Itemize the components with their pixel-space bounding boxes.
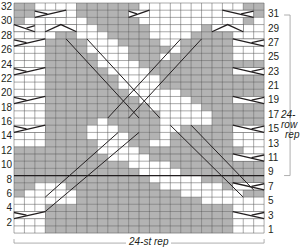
knit-cell <box>254 140 264 147</box>
purl-cell <box>222 147 232 154</box>
purl-cell <box>254 82 264 89</box>
purl-cell <box>170 190 180 197</box>
cable-cross-icon <box>233 154 264 161</box>
knit-cell <box>170 111 180 118</box>
knit-cell <box>97 147 107 154</box>
knit-cell <box>191 104 201 111</box>
knit-cell <box>139 161 149 168</box>
row-number-label: 24 <box>0 60 12 70</box>
purl-cell <box>56 104 66 111</box>
purl-cell <box>87 104 97 111</box>
purl-cell <box>212 89 222 96</box>
purl-cell <box>118 204 128 211</box>
cable-cross-icon <box>222 10 253 17</box>
purl-cell <box>191 219 201 226</box>
purl-cell <box>97 226 107 233</box>
purl-cell <box>212 82 222 89</box>
purl-cell <box>191 168 201 175</box>
cable-cross-icon <box>233 96 264 103</box>
purl-cell <box>149 118 159 125</box>
purl-cell <box>77 140 87 147</box>
purl-cell <box>77 82 87 89</box>
purl-cell <box>77 75 87 82</box>
purl-cell <box>129 39 139 46</box>
knit-cell <box>35 25 45 32</box>
purl-cell <box>243 82 253 89</box>
purl-cell <box>181 197 191 204</box>
purl-cell <box>170 226 180 233</box>
knit-cell <box>35 190 45 197</box>
knit-cell <box>254 219 264 226</box>
row-number-label: 19 <box>268 95 279 105</box>
purl-cell <box>87 140 97 147</box>
purl-cell <box>222 132 232 139</box>
row-number-label: 1 <box>268 225 274 235</box>
purl-cell <box>191 75 201 82</box>
knit-cell <box>160 125 170 132</box>
knit-cell <box>24 132 34 139</box>
knit-cell <box>24 219 34 226</box>
knit-cell <box>170 176 180 183</box>
purl-cell <box>202 176 212 183</box>
knit-cell <box>24 61 34 68</box>
purl-cell <box>129 176 139 183</box>
purl-cell <box>118 39 128 46</box>
row-number-label: 31 <box>268 9 279 19</box>
row-number-label: 10 <box>0 160 12 170</box>
purl-cell <box>222 32 232 39</box>
purl-cell <box>35 154 45 161</box>
purl-cell <box>97 89 107 96</box>
purl-cell <box>87 118 97 125</box>
knit-cell <box>254 53 264 60</box>
knit-cell <box>243 25 253 32</box>
purl-cell <box>202 75 212 82</box>
purl-cell <box>243 111 253 118</box>
purl-cell <box>139 32 149 39</box>
knit-cell <box>181 10 191 17</box>
knit-cell <box>87 46 97 53</box>
purl-cell <box>56 96 66 103</box>
knit-cell <box>254 46 264 53</box>
purl-cell <box>222 118 232 125</box>
knit-cell <box>108 125 118 132</box>
purl-cell <box>149 226 159 233</box>
purl-cell <box>139 204 149 211</box>
knit-cell <box>170 46 180 53</box>
purl-cell <box>118 197 128 204</box>
purl-cell <box>108 32 118 39</box>
purl-cell <box>24 10 34 17</box>
purl-cell <box>139 118 149 125</box>
knit-cell <box>14 204 24 211</box>
knit-cell <box>14 219 24 226</box>
knit-cell <box>118 61 128 68</box>
purl-cell <box>14 168 24 175</box>
purl-cell <box>129 125 139 132</box>
purl-cell <box>254 104 264 111</box>
knit-cell <box>243 219 253 226</box>
knit-cell <box>139 89 149 96</box>
purl-cell <box>212 204 222 211</box>
knit-cell <box>243 197 253 204</box>
knit-cell <box>149 3 159 10</box>
purl-cell <box>66 104 76 111</box>
knit-cell <box>170 3 180 10</box>
knit-cell <box>97 132 107 139</box>
purl-cell <box>66 111 76 118</box>
knit-cell <box>191 10 201 17</box>
knit-cell <box>35 32 45 39</box>
purl-cell <box>191 161 201 168</box>
knit-cell <box>56 190 66 197</box>
purl-cell <box>202 204 212 211</box>
knit-cell <box>56 17 66 24</box>
knit-cell <box>14 61 24 68</box>
purl-cell <box>233 161 243 168</box>
knit-cell <box>222 190 232 197</box>
purl-cell <box>118 3 128 10</box>
purl-cell <box>66 226 76 233</box>
purl-cell <box>212 104 222 111</box>
purl-cell <box>77 125 87 132</box>
knit-cell <box>45 32 55 39</box>
knit-cell <box>233 140 243 147</box>
row-number-label: 17 <box>268 110 279 120</box>
knit-cell <box>14 46 24 53</box>
